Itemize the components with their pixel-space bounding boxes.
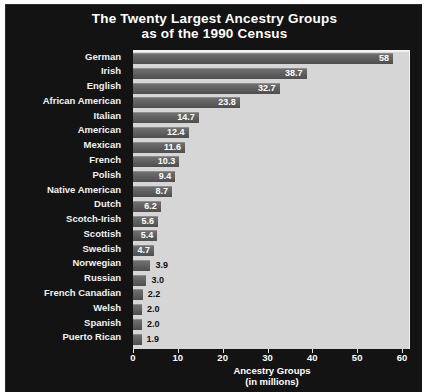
bar-row: 2.0 [133,319,409,333]
category-label: French [5,155,121,165]
bar-row: 5.4 [133,230,409,244]
bar-row: 12.4 [133,127,409,141]
bar-row: 5.6 [133,216,409,230]
bar-value-label: 3.9 [150,260,168,271]
bar-row: 3.0 [133,275,409,289]
bar[interactable] [133,304,142,315]
bar-value-label: 23.8 [133,97,240,108]
x-tick-label: 50 [352,352,363,363]
bar-row: 4.7 [133,245,409,259]
category-label: Native American [5,185,121,195]
chart-title-line-2: as of the 1990 Census [6,26,422,41]
bar-row: 6.2 [133,201,409,215]
bar[interactable] [133,289,143,300]
bar-value-label: 9.4 [133,171,175,182]
bar-value-label: 32.7 [133,83,280,94]
x-axis: 0102030405060 [133,349,411,361]
category-label: English [5,81,121,91]
category-label: Swedish [5,244,121,254]
category-label: Puerto Rican [5,332,121,342]
x-tick-label: 60 [397,352,408,363]
category-label-column: GermanIrishEnglishAfrican AmericanItalia… [6,47,125,347]
bar-row: 11.6 [133,142,409,156]
bar-value-label: 12.4 [133,127,189,138]
bar-row: 14.7 [133,112,409,126]
bar[interactable] [133,260,150,271]
bar-row: 32.7 [133,83,409,97]
category-label: African American [5,96,121,106]
bar-row: 8.7 [133,186,409,200]
x-axis-title: Ancestry Groups (in millions) [133,365,411,387]
bar[interactable] [133,319,142,330]
bar-value-label: 6.2 [133,201,161,212]
bar-value-label: 5.6 [133,216,158,227]
plot-area: 5838.732.723.814.712.411.610.39.48.76.25… [133,50,410,349]
bar-value-label: 2.0 [142,304,160,315]
bar-value-label: 3.0 [146,275,164,286]
category-label: American [5,125,121,135]
bar-value-label: 10.3 [133,156,179,167]
category-label: Irish [5,66,121,76]
x-tick-label: 40 [307,352,318,363]
category-label: Russian [5,273,121,283]
bar-value-label: 1.9 [142,334,160,345]
category-label: French Canadian [5,288,121,298]
category-label: Scotch-Irish [5,214,121,224]
chart-frame: The Twenty Largest Ancestry Groups as of… [0,0,426,392]
bar-row: 1.9 [133,334,409,348]
bar-value-label: 5.4 [133,230,157,241]
bar-row: 3.9 [133,260,409,274]
x-tick-label: 10 [173,352,184,363]
x-axis-title-line-2: (in millions) [133,376,411,387]
chart-title-line-1: The Twenty Largest Ancestry Groups [6,11,422,26]
bar-row: 2.2 [133,289,409,303]
x-axis-title-line-1: Ancestry Groups [133,365,411,376]
x-tick-label: 0 [130,352,135,363]
bar-row: 23.8 [133,97,409,111]
category-label: Spanish [5,318,121,328]
category-label: Welsh [5,303,121,313]
bar-row: 9.4 [133,171,409,185]
category-label: Italian [5,111,121,121]
category-label: Scottish [5,229,121,239]
bar-value-label: 58 [133,53,393,64]
chart-title: The Twenty Largest Ancestry Groups as of… [6,11,422,41]
bar-row: 38.7 [133,68,409,82]
bar[interactable] [133,275,146,286]
bar-value-label: 14.7 [133,112,199,123]
chart-panel: The Twenty Largest Ancestry Groups as of… [5,4,422,392]
bar-row: 10.3 [133,156,409,170]
category-label: Norwegian [5,258,121,268]
bar-value-label: 2.2 [143,289,161,300]
bar-value-label: 2.0 [142,319,160,330]
category-label: German [5,52,121,62]
bar-value-label: 8.7 [133,186,172,197]
x-tick-label: 30 [262,352,273,363]
bar-value-label: 4.7 [133,245,154,256]
category-label: Polish [5,170,121,180]
bar-row: 2.0 [133,304,409,318]
bar-value-label: 11.6 [133,142,185,153]
category-label: Dutch [5,199,121,209]
bar-value-label: 38.7 [133,68,307,79]
x-tick-label: 20 [217,352,228,363]
bar-row: 58 [133,53,409,67]
bar[interactable] [133,334,142,345]
category-label: Mexican [5,140,121,150]
